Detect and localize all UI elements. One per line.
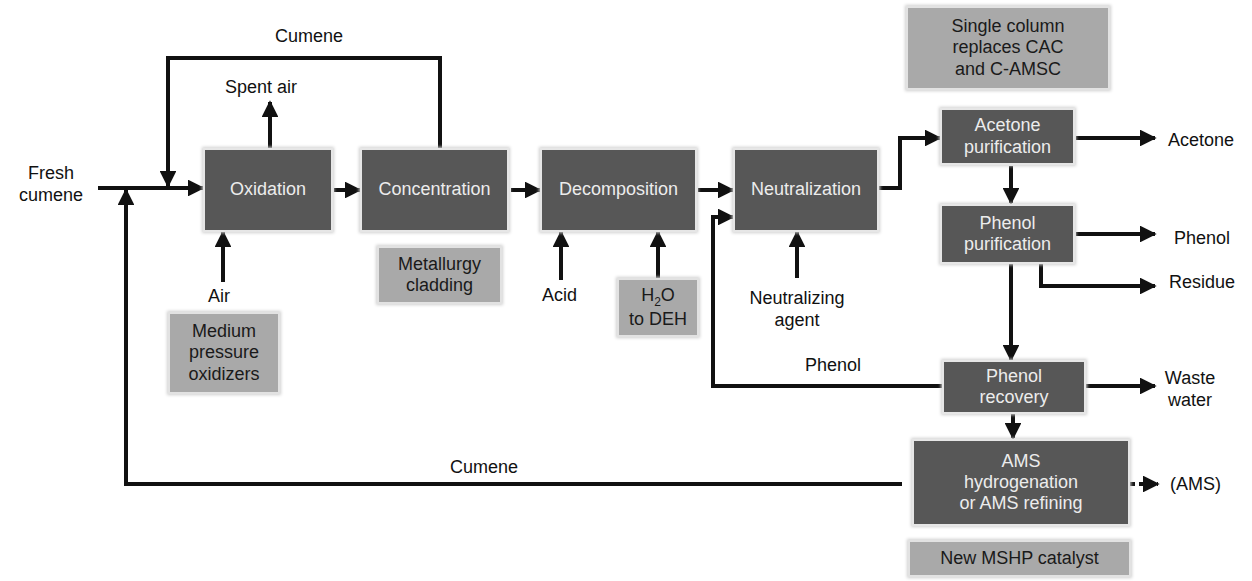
neutralization-label: Neutralization [751,179,861,200]
ams-hydrogenation-unit: AMS hydrogenation or AMS refining [914,441,1128,524]
ams-line3: or AMS refining [959,493,1082,514]
oxidation-label: Oxidation [230,179,306,200]
medium-pressure-line2: pressure [189,342,259,363]
oxidation-unit: Oxidation [205,150,331,230]
concentration-unit: Concentration [362,150,507,230]
phenol-recovery-line2: recovery [979,387,1048,408]
process-flow-diagram: Oxidation Concentration Decomposition Ne… [0,0,1252,581]
acetone-purification-line2: purification [964,137,1051,158]
metallurgy-line2: cladding [406,275,473,296]
ams-line1: AMS [1001,451,1040,472]
residue-out-line [1041,264,1155,286]
spent-air-label: Spent air [225,77,297,99]
medium-pressure-oxidizers-note: Medium pressure oxidizers [170,314,278,392]
single-column-line1: Single column [951,16,1064,37]
phenol-recovery-line1: Phenol [986,366,1042,387]
waste-water-label: Waste water [1160,368,1220,411]
concentration-label: Concentration [378,179,490,200]
neut-acetone-line [879,138,940,188]
medium-pressure-line3: oxidizers [188,364,259,385]
decomposition-unit: Decomposition [542,150,695,230]
phenol-purification-line2: purification [964,234,1051,255]
neutralizing-agent-label: Neutralizing agent [737,288,857,331]
single-column-line3: and C-AMSC [955,59,1061,80]
cumene-recycle-top-label: Cumene [275,26,343,48]
h2o-line2: to DEH [629,309,687,330]
metallurgy-line1: Metallurgy [398,254,481,275]
decomposition-label: Decomposition [559,179,678,200]
h2o-to-deh-note: H2O to DEH [619,280,697,335]
phenol-purification-unit: Phenol purification [942,206,1073,262]
acetone-purification-unit: Acetone purification [942,110,1073,163]
fresh-cumene-label: Fresh cumene [6,163,96,206]
phenol-product-label: Phenol [1174,228,1230,250]
residue-label: Residue [1169,272,1235,294]
ams-line2: hydrogenation [964,472,1078,493]
ams-product-label: (AMS) [1170,474,1221,496]
mshp-catalyst-note: New MSHP catalyst [910,542,1129,575]
cumene-recycle-bottom-label: Cumene [450,457,518,479]
acid-label: Acid [542,285,577,307]
h2o-formula: H2O [641,285,675,309]
phenol-purification-line1: Phenol [979,213,1035,234]
acetone-purification-line1: Acetone [974,115,1040,136]
air-label: Air [208,286,230,308]
phenol-recovery-unit: Phenol recovery [944,362,1084,412]
acetone-product-label: Acetone [1168,130,1234,152]
medium-pressure-line1: Medium [192,321,256,342]
neutralization-unit: Neutralization [735,150,877,230]
mshp-label: New MSHP catalyst [940,548,1099,569]
single-column-line2: replaces CAC [952,37,1063,58]
metallurgy-cladding-note: Metallurgy cladding [379,248,500,302]
single-column-note: Single column replaces CAC and C-AMSC [908,8,1108,88]
phenol-recycle-label: Phenol [805,355,861,377]
